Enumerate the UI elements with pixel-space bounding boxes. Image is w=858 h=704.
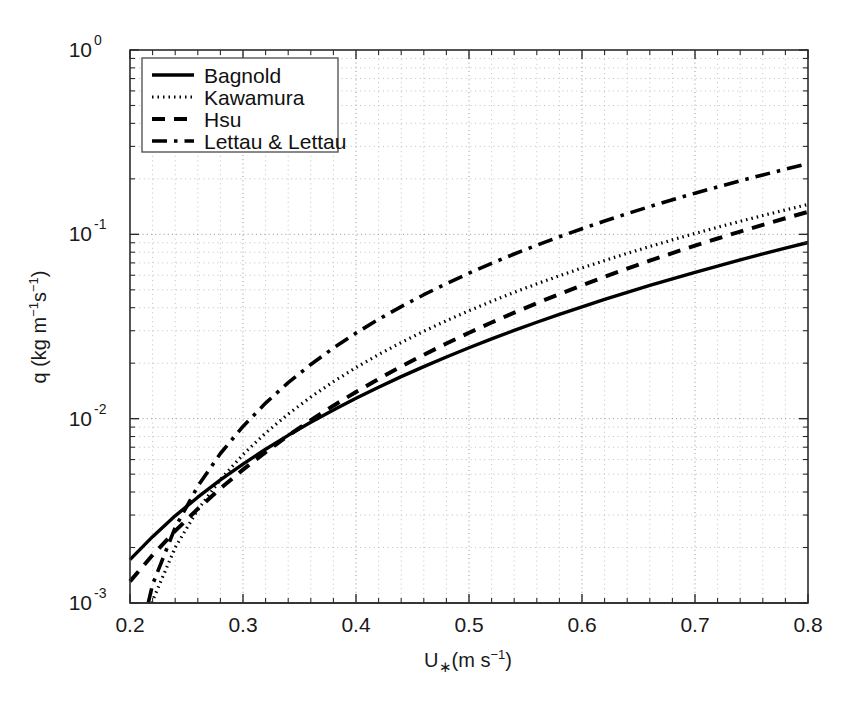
x-tick-label: 0.6 [567, 613, 596, 636]
x-tick-label: 0.4 [341, 613, 371, 636]
y-tick-label-mantissa: 10 [69, 222, 92, 245]
legend-label: Hsu [204, 108, 241, 131]
x-tick-label: 0.8 [793, 613, 822, 636]
y-tick-label-mantissa: 10 [69, 591, 92, 614]
y-tick-label-mantissa: 10 [69, 407, 92, 430]
x-tick-label: 0.5 [454, 613, 483, 636]
legend-label: Lettau & Lettau [204, 130, 346, 153]
legend-label: Kawamura [204, 86, 305, 109]
y-tick-label-exponent: 0 [94, 32, 102, 48]
figure-container: 0.20.30.40.50.60.70.810-310-210-1100 q (… [0, 0, 858, 704]
x-tick-label: 0.3 [228, 613, 257, 636]
sand-transport-log-plot: 0.20.30.40.50.60.70.810-310-210-1100 q (… [0, 0, 858, 704]
x-tick-label: 0.2 [115, 613, 144, 636]
legend-label: Bagnold [204, 64, 281, 87]
y-tick-label-exponent: -3 [94, 585, 107, 601]
y-tick-label-mantissa: 10 [69, 38, 92, 61]
x-tick-label: 0.7 [680, 613, 709, 636]
y-tick-label-exponent: -1 [94, 216, 107, 232]
y-tick-label-exponent: -2 [94, 401, 107, 417]
legend: BagnoldKawamuraHsuLettau & Lettau [142, 58, 346, 153]
